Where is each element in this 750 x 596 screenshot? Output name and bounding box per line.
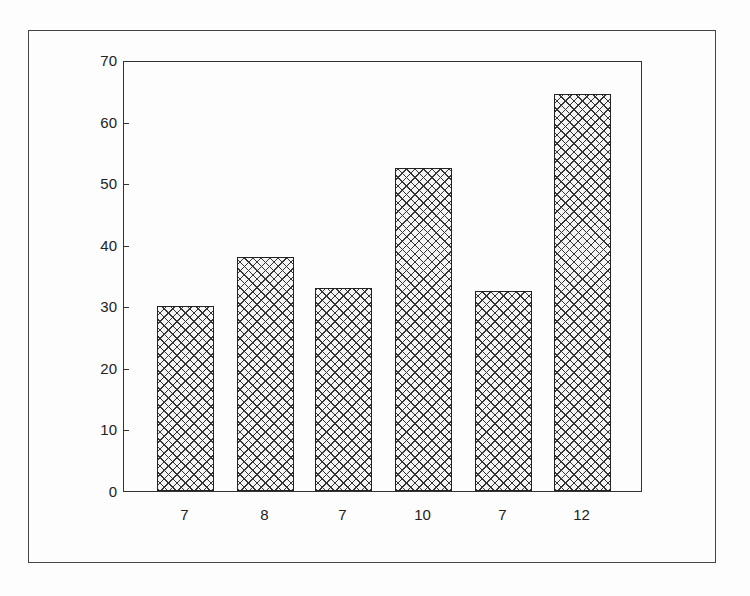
y-tick xyxy=(123,246,129,247)
y-tick-label: 10 xyxy=(77,421,117,438)
bar xyxy=(395,168,452,491)
bar xyxy=(554,94,611,491)
y-tick-label: 30 xyxy=(77,298,117,315)
x-tick-label: 8 xyxy=(235,506,295,523)
y-tick-label: 40 xyxy=(77,237,117,254)
y-tick xyxy=(123,184,129,185)
y-tick xyxy=(123,430,129,431)
y-tick-label: 20 xyxy=(77,360,117,377)
bar xyxy=(157,306,214,491)
plot-area xyxy=(123,61,642,492)
x-tick-label: 10 xyxy=(393,506,453,523)
y-tick-label: 50 xyxy=(77,175,117,192)
y-tick xyxy=(123,369,129,370)
y-tick-label: 0 xyxy=(77,483,117,500)
x-tick-label: 12 xyxy=(552,506,612,523)
y-tick-label: 70 xyxy=(77,52,117,69)
y-tick xyxy=(123,307,129,308)
bar xyxy=(315,288,372,491)
x-tick-label: 7 xyxy=(155,506,215,523)
y-tick-label: 60 xyxy=(77,114,117,131)
x-tick-label: 7 xyxy=(313,506,373,523)
y-tick xyxy=(123,123,129,124)
bar xyxy=(475,291,532,491)
x-tick-label: 7 xyxy=(473,506,533,523)
bar xyxy=(237,257,294,491)
